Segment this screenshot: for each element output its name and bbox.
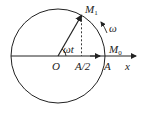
label-x-axis: x	[124, 60, 130, 72]
label-omega: ω	[109, 22, 117, 34]
label-M0: M0	[108, 43, 122, 57]
omega-rotation-arrow	[101, 22, 107, 33]
label-origin: O	[52, 60, 60, 72]
label-omega-t: ωt	[63, 43, 75, 55]
diagram-canvas: M1 ω ωt M0 O A/2 A x	[0, 0, 145, 116]
label-half-amplitude: A/2	[74, 60, 91, 72]
label-amplitude: A	[103, 60, 111, 72]
label-M1: M1	[84, 3, 98, 17]
